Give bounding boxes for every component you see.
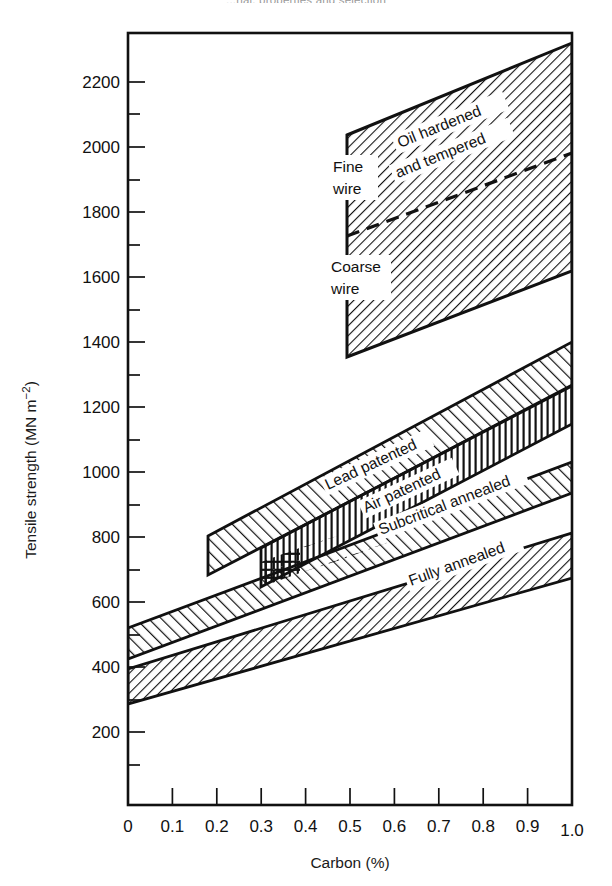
y-tick-400: 400 [92,658,120,677]
y-tick-2200: 2200 [82,73,120,92]
y-axis-title-close: ) [22,381,39,386]
y-tick-1800: 1800 [82,203,120,222]
y-axis-title: Tensile strength (MN m−2) [20,381,39,559]
tensile-strength-chart: 200 400 600 800 1000 1200 1400 1600 1800… [0,0,612,886]
x-axis-tick-labels: 0 0.1 0.2 0.3 0.4 0.5 0.6 0.7 0.8 0.9 1.… [123,817,584,840]
chart-figure: 200 400 600 800 1000 1200 1400 1600 1800… [0,0,612,886]
y-tick-1200: 1200 [82,398,120,417]
x-tick-0.6: 0.6 [383,817,407,836]
y-tick-1000: 1000 [82,463,120,482]
y-tick-1400: 1400 [82,333,120,352]
y-tick-600: 600 [92,593,120,612]
x-tick-0.1: 0.1 [161,817,185,836]
x-tick-0.5: 0.5 [338,817,362,836]
x-tick-0.4: 0.4 [294,817,318,836]
coarse-wire-line2: wire [330,280,359,297]
y-tick-800: 800 [92,528,120,547]
x-tick-0.8: 0.8 [471,817,495,836]
x-tick-1.0: 1.0 [560,821,584,840]
x-tick-0.2: 0.2 [205,817,229,836]
x-axis-title: Carbon (%) [310,854,389,871]
band-label-coarse-wire: Coarse wire [329,255,391,300]
band-oil-hardened-and-tempered [347,43,572,357]
y-axis-title-main: Tensile strength (MN m [22,399,39,558]
x-tick-0.3: 0.3 [249,817,273,836]
y-tick-2000: 2000 [82,138,120,157]
fine-wire-line1: Fine [333,158,363,175]
x-tick-0.9: 0.9 [516,817,540,836]
y-axis-ticks [128,82,145,765]
y-tick-1600: 1600 [82,268,120,287]
coarse-wire-line1: Coarse [331,258,381,275]
x-tick-0: 0 [123,817,132,836]
y-tick-200: 200 [92,723,120,742]
band-label-fine-wire: Fine wire [332,155,378,200]
y-axis-tick-labels: 200 400 600 800 1000 1200 1400 1600 1800… [82,73,120,742]
data-bands [128,43,572,704]
y-axis-title-exponent: −2 [20,386,32,399]
x-axis-ticks [172,788,527,805]
x-tick-0.7: 0.7 [427,817,451,836]
fine-wire-line2: wire [332,180,361,197]
svg-text:Tensile strength (MN m−2): Tensile strength (MN m−2) [20,381,39,559]
